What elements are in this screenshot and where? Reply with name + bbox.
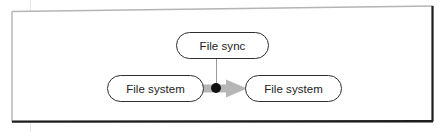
diagram-canvas: File sync File system File system — [0, 0, 444, 132]
diagram-content: File sync File system File system — [0, 0, 444, 132]
flow-arrow-icon — [198, 79, 248, 98]
node-file-system-source-label: File system — [126, 83, 185, 95]
node-file-system-source[interactable]: File system — [107, 75, 204, 102]
flow-junction-dot[interactable] — [211, 83, 221, 93]
node-file-sync[interactable]: File sync — [176, 32, 269, 59]
node-file-system-target[interactable]: File system — [245, 75, 342, 102]
node-file-sync-label: File sync — [200, 40, 246, 52]
node-file-system-target-label: File system — [264, 83, 323, 95]
